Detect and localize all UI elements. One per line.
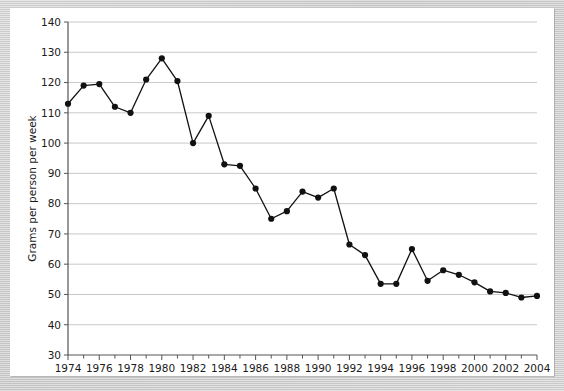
y-axis-tick-labels: 30405060708090100110120130140: [41, 16, 61, 361]
chart-svg: 30405060708090100110120130140 1974197619…: [10, 8, 554, 376]
x-axis-tick-label: 2002: [492, 362, 519, 374]
y-axis-tick-label: 130: [41, 46, 61, 58]
data-point-marker: [456, 272, 462, 278]
y-axis-tick-label: 30: [48, 349, 61, 361]
data-point-marker: [143, 76, 149, 82]
x-axis-tick-label: 1998: [430, 362, 457, 374]
data-point-marker: [206, 113, 212, 119]
x-axis-tick-label: 1976: [86, 362, 113, 374]
data-point-marker: [299, 188, 305, 194]
data-point-marker: [424, 278, 430, 284]
axes: [64, 22, 537, 355]
y-axis-tick-label: 40: [48, 319, 61, 331]
data-point-marker: [221, 161, 227, 167]
y-axis-tick-label: 140: [41, 16, 61, 28]
y-axis-tick-label: 60: [48, 258, 61, 270]
data-point-marker: [362, 252, 368, 258]
x-axis-tick-label: 1986: [242, 362, 269, 374]
x-axis-tick-label: 1978: [117, 362, 144, 374]
data-point-marker: [487, 288, 493, 294]
x-axis-tick-label: 1974: [55, 362, 82, 374]
data-point-marker: [65, 101, 71, 107]
x-axis-tick-labels: 1974197619781980198219841986198819901992…: [55, 362, 551, 374]
data-point-marker: [268, 216, 274, 222]
y-axis-tick-label: 80: [48, 197, 61, 209]
y-axis-tick-label: 50: [48, 288, 61, 300]
x-axis-tick-label: 1988: [273, 362, 300, 374]
data-point-marker: [503, 290, 509, 296]
data-point-marker: [378, 281, 384, 287]
data-point-marker: [112, 104, 118, 110]
x-axis-tick-label: 1996: [399, 362, 426, 374]
data-point-marker: [315, 194, 321, 200]
x-axis-tick-label: 1990: [305, 362, 332, 374]
data-point-marker: [393, 281, 399, 287]
y-axis-tick-label: 70: [48, 228, 61, 240]
data-point-marker: [237, 163, 243, 169]
data-point-marker: [471, 279, 477, 285]
data-point-marker: [534, 293, 540, 299]
gridlines: [68, 22, 537, 325]
line-chart: 30405060708090100110120130140 1974197619…: [10, 8, 554, 376]
data-point-marker: [127, 110, 133, 116]
data-point-marker: [190, 140, 196, 146]
data-point-marker: [331, 185, 337, 191]
y-axis-tick-label: 120: [41, 76, 61, 88]
x-axis-ticks: [68, 355, 537, 360]
y-axis-tick-label: 100: [41, 137, 61, 149]
y-axis-title: Grams per person per week: [26, 114, 38, 261]
x-axis-tick-label: 2000: [461, 362, 488, 374]
x-axis-tick-label: 1982: [180, 362, 207, 374]
y-axis-tick-label: 110: [41, 107, 61, 119]
data-point-marker: [409, 246, 415, 252]
x-axis-tick-label: 1980: [148, 362, 175, 374]
data-point-marker: [174, 78, 180, 84]
data-point-marker: [518, 294, 524, 300]
data-point-marker: [96, 81, 102, 87]
y-axis-tick-label: 90: [48, 167, 61, 179]
data-point-marker: [284, 208, 290, 214]
data-point-marker: [346, 241, 352, 247]
x-axis-tick-label: 1992: [336, 362, 363, 374]
data-series-line: [68, 58, 537, 297]
x-axis-tick-label: 2004: [524, 362, 551, 374]
x-axis-tick-label: 1984: [211, 362, 238, 374]
x-axis-tick-label: 1994: [367, 362, 394, 374]
data-point-marker: [440, 267, 446, 273]
data-point-marker: [81, 82, 87, 88]
chart-card: 30405060708090100110120130140 1974197619…: [10, 8, 554, 376]
data-point-marker: [159, 55, 165, 61]
data-point-marker: [253, 185, 259, 191]
series-line: [68, 58, 537, 297]
